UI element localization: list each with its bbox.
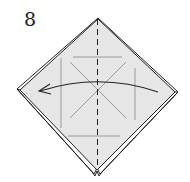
origami-diagram	[0, 0, 190, 182]
